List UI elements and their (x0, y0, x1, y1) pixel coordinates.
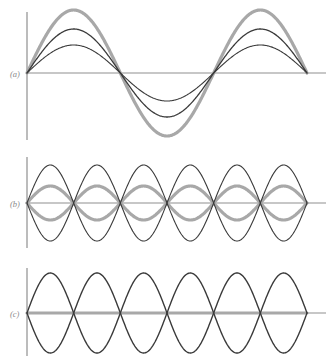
standing-wave-figure: (a) (b) (c) (0, 0, 335, 364)
panel-c-label: (c) (10, 309, 20, 319)
panel-a-label: (a) (10, 69, 20, 79)
panel-b-label: (b) (10, 199, 20, 209)
